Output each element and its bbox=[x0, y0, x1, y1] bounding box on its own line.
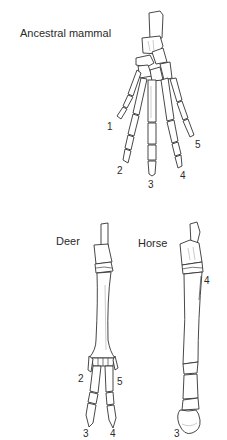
limb-skeletons-drawing bbox=[0, 0, 227, 440]
ancestral-digit-5-label: 5 bbox=[195, 140, 201, 150]
horse-skeleton bbox=[178, 222, 203, 434]
horse-digit-4-label: 4 bbox=[204, 276, 210, 286]
deer-digit-5-label: 5 bbox=[117, 377, 123, 387]
deer-skeleton bbox=[86, 223, 118, 428]
ancestral-mammal-skeleton bbox=[117, 11, 194, 176]
horse-title: Horse bbox=[138, 238, 167, 249]
deer-digit-3-label: 3 bbox=[83, 429, 89, 439]
ancestral-mammal-title: Ancestral mammal bbox=[20, 28, 111, 39]
horse-digit-3-label: 3 bbox=[174, 429, 180, 439]
ancestral-digit-2-label: 2 bbox=[117, 166, 123, 176]
ancestral-digit-4-label: 4 bbox=[180, 171, 186, 181]
deer-title: Deer bbox=[56, 236, 80, 247]
deer-digit-2-label: 2 bbox=[78, 374, 84, 384]
ancestral-digit-1-label: 1 bbox=[107, 122, 113, 132]
ancestral-digit-3-label: 3 bbox=[148, 180, 154, 190]
deer-digit-4-label: 4 bbox=[110, 429, 116, 439]
